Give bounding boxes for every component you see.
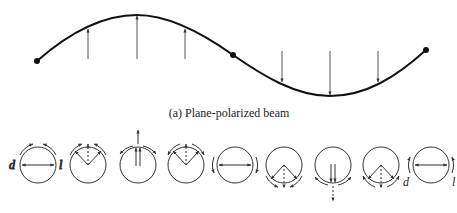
label-l: l [452, 175, 456, 189]
circular-components-row: d l [9, 130, 454, 201]
wave-dot-middle [230, 52, 236, 58]
wave-dot-start [34, 58, 40, 64]
polarized-beam-diagram: (a) Plane-polarized beam d l [0, 0, 457, 213]
circle-diagonal-up [70, 144, 106, 183]
plane-polarized-wave [34, 15, 429, 96]
label-d: d [403, 175, 410, 189]
circle-vertical-up [120, 130, 156, 183]
circle-diagonal-down [363, 147, 399, 188]
circle-horizontal [408, 147, 453, 183]
label-d: d [9, 158, 16, 172]
circle-vertical-down [315, 147, 351, 201]
circle-horizontal [212, 147, 257, 183]
label-l: l [59, 158, 63, 172]
wave-dot-end [423, 47, 429, 53]
figure-caption: (a) Plane-polarized beam [169, 106, 290, 120]
circle-diagonal-up [168, 144, 204, 183]
circle-diagonal-down [266, 147, 302, 188]
circle-horizontal [20, 144, 56, 183]
